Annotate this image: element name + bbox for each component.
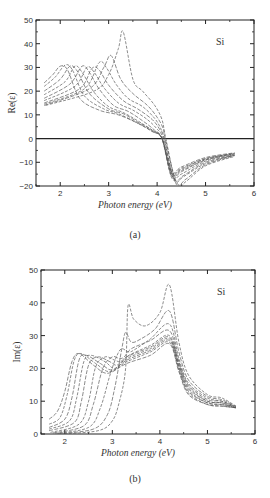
x-tick-label: 3 <box>110 437 115 446</box>
y-tick-label: 50 <box>29 266 38 275</box>
x-tick-label: 5 <box>203 189 208 198</box>
x-axis-title: Photon energy (eV) <box>100 448 175 459</box>
y-tick-label: 30 <box>24 63 33 72</box>
y-tick-label: 10 <box>24 111 33 120</box>
data-curve <box>49 342 236 425</box>
data-curve <box>44 66 234 174</box>
data-curve <box>46 31 235 188</box>
y-tick-label: 40 <box>29 299 38 308</box>
curves-group <box>49 284 236 434</box>
y-axis-title: Im(ε) <box>12 342 23 363</box>
y-tick-label: 10 <box>29 397 38 406</box>
caption-a: (a) <box>0 229 270 240</box>
y-tick-label: 0 <box>34 430 39 439</box>
y-tick-label: −10 <box>19 158 33 167</box>
figure-a-real-dielectric: −20−100102030405023456Photon energy (eV)… <box>0 0 270 250</box>
y-tick-label: 30 <box>29 332 38 341</box>
x-tick-label: 5 <box>205 437 210 446</box>
y-axis-title: Re(ε) <box>7 93 18 114</box>
data-curve <box>55 324 236 434</box>
data-curve <box>49 337 236 431</box>
y-tick-label: 50 <box>24 16 33 25</box>
data-curve <box>49 340 236 427</box>
chart-imag-epsilon: 0102030405023456Photon energy (eV)Im(ε)S… <box>0 250 270 498</box>
data-curve <box>58 310 236 433</box>
y-tick-label: 40 <box>24 40 33 49</box>
chart-real-epsilon: −20−100102030405023456Photon energy (eV)… <box>0 0 270 250</box>
curves-group <box>44 31 234 188</box>
x-tick-label: 4 <box>158 437 163 446</box>
x-tick-label: 6 <box>253 437 258 446</box>
data-curve <box>49 338 236 429</box>
y-tick-label: 20 <box>29 364 38 373</box>
y-tick-label: 20 <box>24 87 33 96</box>
figure-b-imag-dielectric: 0102030405023456Photon energy (eV)Im(ε)S… <box>0 250 270 498</box>
x-tick-label: 2 <box>63 437 68 446</box>
caption-b: (b) <box>0 473 270 484</box>
y-tick-label: −20 <box>19 182 33 191</box>
x-axis-title: Photon energy (eV) <box>97 200 172 211</box>
x-tick-label: 2 <box>58 189 63 198</box>
x-tick-label: 4 <box>155 189 160 198</box>
material-label: Si <box>216 36 225 47</box>
x-tick-label: 6 <box>252 189 257 198</box>
material-label: Si <box>217 286 226 297</box>
data-curve <box>53 330 236 433</box>
y-tick-label: 0 <box>29 135 34 144</box>
x-tick-label: 3 <box>106 189 111 198</box>
